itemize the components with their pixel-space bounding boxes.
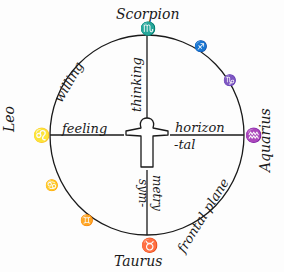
axis-label-symmetry-line1: sym- xyxy=(137,179,149,207)
axis-label-horizontal-line2: -tal xyxy=(174,138,196,151)
sagittarius-symbol-icon: ♐ xyxy=(194,41,208,52)
zodiac-diagram: Scorpion ♏ ♐ ♑ Leo ♌ ♋ ♊ Aquarius ♒ ♉ Ta… xyxy=(0,0,284,272)
cancer-symbol-icon: ♋ xyxy=(45,180,59,191)
capricorn-symbol-icon: ♑ xyxy=(223,75,237,86)
leo-symbol-icon: ♌ xyxy=(33,128,50,142)
gemini-symbol-icon: ♊ xyxy=(80,215,94,226)
human-figure-icon xyxy=(126,118,168,167)
taurus-symbol-icon: ♉ xyxy=(141,238,158,252)
axis-label-thinking: thinking xyxy=(130,57,143,112)
axis-label-horizontal-line1: horizon xyxy=(175,121,225,134)
aquarius-symbol-icon: ♒ xyxy=(245,128,262,142)
sign-label-scorpion: Scorpion xyxy=(116,7,179,21)
axis-label-symmetry-line2: metry xyxy=(151,175,163,211)
axis-label-feeling: feeling xyxy=(62,122,107,135)
sign-label-taurus: Taurus xyxy=(114,254,163,268)
sign-label-leo: Leo xyxy=(2,106,16,132)
scorpio-symbol-icon: ♏ xyxy=(140,22,156,35)
